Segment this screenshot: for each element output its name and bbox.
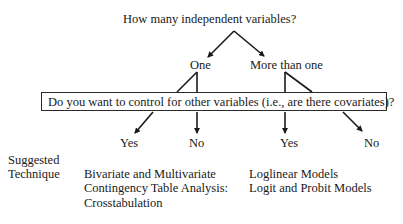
technique-one-line3: Crosstabulation — [84, 196, 162, 210]
covariate-question-box: Do you want to control for other variabl… — [41, 92, 387, 111]
arrow-more-no — [343, 112, 362, 131]
arrow-to-more-than-one — [234, 31, 264, 56]
one-yes-label: Yes — [120, 136, 138, 150]
covariate-question: Do you want to control for other variabl… — [48, 95, 394, 109]
root-question: How many independent variables? — [123, 12, 296, 26]
arrow-one-yes — [135, 112, 153, 133]
suggested-label: Suggested — [8, 153, 59, 167]
arrow-to-one — [208, 31, 234, 57]
more-no-label: No — [364, 136, 379, 150]
option-more-than-one: More than one — [250, 58, 323, 72]
technique-more-line1: Loglinear Models — [249, 167, 338, 181]
option-one: One — [190, 58, 211, 72]
technique-more-line2: Logit and Probit Models — [249, 181, 372, 195]
more-yes-label: Yes — [280, 136, 298, 150]
one-no-label: No — [189, 136, 204, 150]
technique-label: Technique — [8, 167, 60, 181]
line-one-diagonal — [177, 72, 197, 92]
technique-one-line2: Contingency Table Analysis: — [84, 181, 228, 195]
technique-one-line1: Bivariate and Multivariate — [84, 167, 216, 181]
line-more-diagonal — [285, 72, 312, 92]
